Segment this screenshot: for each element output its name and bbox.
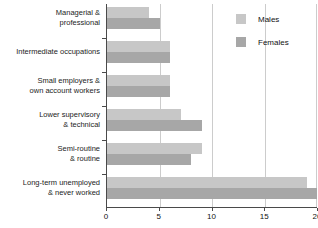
bar-males [107, 41, 170, 52]
bar-females [107, 188, 317, 199]
category-label-managerial-professional: Managerial & professional [0, 8, 100, 28]
bar-group-small-employers [107, 72, 317, 106]
category-label-line: & never worked [0, 188, 100, 198]
bar-males [107, 177, 307, 188]
bar-females [107, 120, 202, 131]
x-axis-tick [317, 208, 318, 211]
bar-males [107, 143, 202, 154]
category-label-lower-supervisory: Lower supervisory & technical [0, 110, 100, 130]
bar-chart: Managerial & professional Intermediate o… [0, 0, 318, 228]
bar-females [107, 86, 170, 97]
category-label-long-term-unemployed: Long-term unemployed & never worked [0, 178, 100, 198]
category-label-line: own account workers [0, 86, 100, 96]
legend-item-males: Males [236, 14, 289, 24]
category-label-line: Managerial & [0, 8, 100, 18]
category-label-line: Lower supervisory [0, 110, 100, 120]
bar-females [107, 52, 170, 63]
x-tick-label: 5 [157, 212, 161, 221]
x-axis-tick [106, 208, 107, 211]
category-label-line: Semi-routine [0, 144, 100, 154]
legend-label-females: Females [258, 38, 289, 47]
legend: Males Females [236, 14, 289, 60]
x-axis-tick [159, 208, 160, 211]
bar-females [107, 154, 191, 165]
category-label-line: Intermediate occupations [0, 47, 100, 57]
category-label-line: & technical [0, 120, 100, 130]
legend-swatch-males [236, 14, 246, 24]
x-tick-label: 15 [260, 212, 269, 221]
bar-group-lower-supervisory [107, 106, 317, 140]
category-label-line: & routine [0, 154, 100, 164]
x-tick-label: 0 [104, 212, 108, 221]
x-tick-label: 10 [207, 212, 216, 221]
category-label-line: Small employers & [0, 76, 100, 86]
category-label-line: Long-term unemployed [0, 178, 100, 188]
legend-label-males: Males [258, 15, 279, 24]
category-label-semi-routine: Semi-routine & routine [0, 144, 100, 164]
x-axis: 0 5 10 15 20 [106, 208, 317, 228]
category-label-line: professional [0, 18, 100, 28]
x-tick-label: 20 [313, 212, 318, 221]
category-label-intermediate-occupations: Intermediate occupations [0, 47, 100, 57]
bar-males [107, 7, 149, 18]
x-axis-tick [264, 208, 265, 211]
legend-item-females: Females [236, 37, 289, 47]
bar-group-semi-routine [107, 140, 317, 174]
legend-swatch-females [236, 37, 246, 47]
category-label-small-employers: Small employers & own account workers [0, 76, 100, 96]
x-axis-tick [212, 208, 213, 211]
bar-males [107, 75, 170, 86]
bar-group-long-term-unemployed [107, 174, 317, 208]
bar-females [107, 18, 160, 29]
bar-males [107, 109, 181, 120]
